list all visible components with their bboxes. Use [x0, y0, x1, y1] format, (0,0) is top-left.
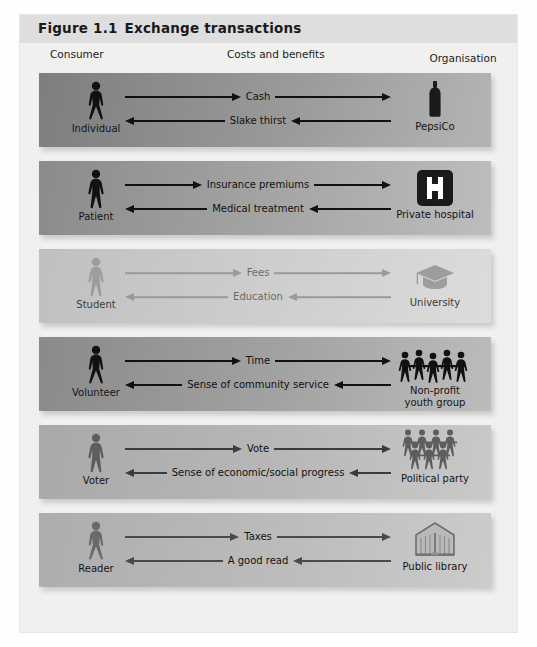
- exchange-row: Individual Cash Slake thirst: [39, 73, 491, 147]
- arrow-segment-left: [125, 380, 182, 390]
- exchange-row: Volunteer Time Sense of community servic…: [39, 337, 491, 411]
- outbound-flow: Vote: [125, 441, 391, 457]
- flow-label-inbound: Sense of economic/social progress: [167, 467, 350, 479]
- arrow-segment-left: [125, 444, 242, 454]
- row-band: Student Fees Education: [39, 249, 491, 323]
- flow-arrows: Time Sense of community service: [125, 347, 391, 405]
- figure-number: Figure 1.1: [38, 20, 118, 36]
- male-person-icon: [83, 167, 109, 209]
- male-person-icon: [83, 431, 109, 473]
- outbound-flow: Fees: [125, 265, 391, 281]
- organisation-label: University: [410, 297, 460, 309]
- flow-arrows: Fees Education: [125, 259, 391, 317]
- exchange-row: Reader Taxes A good read: [39, 513, 491, 587]
- flow-label-outbound: Insurance premiums: [202, 179, 314, 191]
- column-header-consumer: Consumer: [50, 48, 104, 60]
- arrow-segment-left: [125, 268, 242, 278]
- organisation-label-line2: youth group: [405, 397, 466, 408]
- arrow-segment-left: [125, 92, 241, 102]
- arrow-segment-left: [125, 468, 167, 478]
- arrow-segment-right: [274, 444, 391, 454]
- arrow-segment-left: [125, 356, 241, 366]
- arrow-segment-right: [275, 92, 391, 102]
- organisation-label: PepsiCo: [415, 121, 454, 133]
- exchange-rows: Individual Cash Slake thirst: [20, 73, 517, 601]
- inbound-flow: Education: [125, 289, 391, 305]
- arrow-segment-left: [125, 116, 225, 126]
- consumer-actor: Student: [61, 255, 131, 321]
- flow-label-outbound: Fees: [242, 267, 275, 279]
- organisation-actor: Political party: [385, 429, 485, 499]
- arrow-segment-right: [293, 556, 391, 566]
- flow-arrows: Vote Sense of economic/social progress: [125, 435, 391, 493]
- arrow-segment-right: [277, 532, 391, 542]
- organisation-actor: University: [385, 253, 485, 323]
- organisation-label: Private hospital: [396, 209, 474, 221]
- flow-arrows: Cash Slake thirst: [125, 83, 391, 141]
- inbound-flow: Sense of community service: [125, 377, 391, 393]
- inbound-flow: Slake thirst: [125, 113, 391, 129]
- flow-label-outbound: Vote: [242, 443, 274, 455]
- female-person-icon: [83, 343, 109, 385]
- female-person-icon: [83, 79, 109, 121]
- flow-label-inbound: Sense of community service: [182, 379, 334, 391]
- consumer-label: Volunteer: [72, 387, 120, 398]
- flow-label-outbound: Taxes: [239, 531, 277, 543]
- consumer-actor: Reader: [61, 519, 131, 585]
- female-person-icon: [83, 519, 109, 561]
- inbound-flow: Sense of economic/social progress: [125, 465, 391, 481]
- organisation-label: Public library: [403, 561, 468, 573]
- arrow-segment-right: [309, 204, 391, 214]
- row-band: Individual Cash Slake thirst: [39, 73, 491, 147]
- hospital-h-icon: [416, 165, 454, 207]
- arrow-segment-right: [314, 180, 391, 190]
- outbound-flow: Cash: [125, 89, 391, 105]
- exchange-row: Voter Vote Sense of economic/social prog…: [39, 425, 491, 499]
- flow-label-inbound: Slake thirst: [225, 115, 291, 127]
- figure-title-text: Exchange transactions: [125, 20, 302, 36]
- row-band: Volunteer Time Sense of community servic…: [39, 337, 491, 411]
- inbound-flow: A good read: [125, 553, 391, 569]
- graduation-cap-icon: [414, 253, 456, 295]
- page-title: Figure 1.1Exchange transactions: [38, 20, 302, 36]
- outbound-flow: Insurance premiums: [125, 177, 391, 193]
- arrow-segment-right: [334, 380, 391, 390]
- arrow-segment-right: [291, 116, 391, 126]
- arrow-segment-right: [274, 268, 391, 278]
- consumer-actor: Voter: [61, 431, 131, 497]
- arrow-segment-left: [125, 204, 207, 214]
- column-header-costs: Costs and benefits: [227, 48, 325, 60]
- organisation-actor: Non-profityouth group: [385, 341, 485, 411]
- figure-page: Figure 1.1Exchange transactions Consumer…: [0, 0, 537, 647]
- flow-label-inbound: A good read: [223, 555, 294, 567]
- flow-label-inbound: Education: [228, 291, 288, 303]
- flow-arrows: Taxes A good read: [125, 523, 391, 581]
- people-crowd-icon: [400, 429, 470, 471]
- consumer-label: Student: [76, 299, 115, 310]
- arrow-segment-right: [288, 292, 391, 302]
- row-band: Reader Taxes A good read: [39, 513, 491, 587]
- arrow-segment-right: [275, 356, 391, 366]
- bottle-icon: [425, 77, 445, 119]
- consumer-label: Reader: [78, 563, 113, 574]
- consumer-label: Individual: [72, 123, 121, 134]
- people-group-icon: [398, 341, 472, 383]
- figure-container: Figure 1.1Exchange transactions Consumer…: [19, 14, 518, 633]
- flow-label-outbound: Cash: [241, 91, 276, 103]
- arrow-segment-left: [125, 556, 223, 566]
- organisation-actor: Public library: [385, 517, 485, 587]
- arrow-segment-left: [125, 180, 202, 190]
- consumer-actor: Patient: [61, 167, 131, 233]
- organisation-label-line1: Non-profit: [410, 385, 460, 396]
- outbound-flow: Taxes: [125, 529, 391, 545]
- row-band: Voter Vote Sense of economic/social prog…: [39, 425, 491, 499]
- organisation-label: Political party: [401, 473, 469, 485]
- arrow-segment-left: [125, 532, 239, 542]
- consumer-actor: Volunteer: [61, 343, 131, 409]
- consumer-label: Voter: [83, 475, 109, 486]
- organisation-label: Non-profityouth group: [405, 385, 466, 408]
- exchange-row: Patient Insurance premiums Medical treat…: [39, 161, 491, 235]
- inbound-flow: Medical treatment: [125, 201, 391, 217]
- male-person-icon: [83, 255, 109, 297]
- row-band: Patient Insurance premiums Medical treat…: [39, 161, 491, 235]
